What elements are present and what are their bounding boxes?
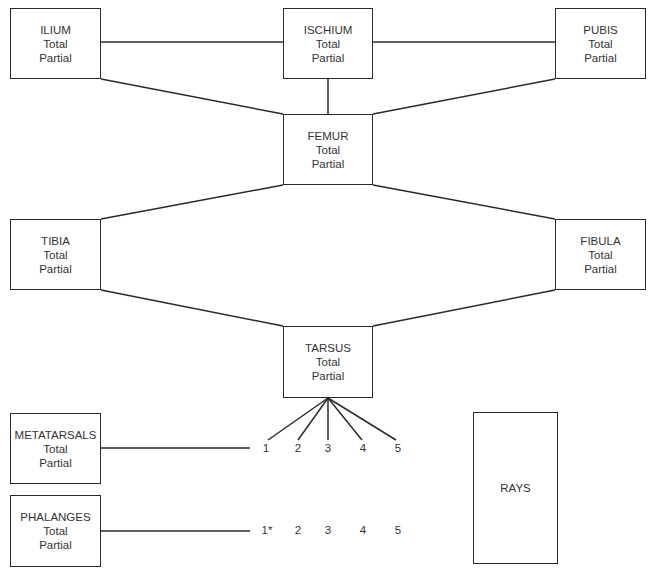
node-partial: Partial: [39, 262, 72, 276]
phalanx-number-3: 3: [325, 524, 331, 536]
node-title: RAYS: [500, 481, 530, 495]
node-femur: FEMUR Total Partial: [283, 114, 373, 185]
node-partial: Partial: [584, 51, 617, 65]
node-partial: Partial: [39, 538, 72, 552]
phalanx-number-4: 4: [360, 524, 366, 536]
node-tibia: TIBIA Total Partial: [10, 219, 101, 290]
node-partial: Partial: [312, 369, 345, 383]
node-title: ISCHIUM: [304, 23, 353, 37]
node-phalanges: PHALANGES Total Partial: [10, 495, 101, 567]
node-total: Total: [316, 355, 340, 369]
node-ilium: ILIUM Total Partial: [10, 8, 101, 79]
node-rays: RAYS: [473, 412, 558, 564]
node-total: Total: [588, 248, 612, 262]
node-tarsus: TARSUS Total Partial: [283, 326, 373, 398]
metatarsal-number-1: 1: [263, 442, 269, 454]
node-partial: Partial: [584, 262, 617, 276]
node-total: Total: [316, 37, 340, 51]
node-total: Total: [588, 37, 612, 51]
node-title: FEMUR: [308, 129, 349, 143]
node-pubis: PUBIS Total Partial: [555, 8, 646, 79]
node-partial: Partial: [39, 456, 72, 470]
node-title: METATARSALS: [15, 428, 97, 442]
node-partial: Partial: [39, 51, 72, 65]
node-total: Total: [43, 524, 67, 538]
metatarsal-number-3: 3: [325, 442, 331, 454]
node-title: TIBIA: [41, 234, 70, 248]
node-title: FIBULA: [580, 234, 620, 248]
metatarsal-number-5: 5: [395, 442, 401, 454]
node-title: TARSUS: [305, 341, 351, 355]
node-total: Total: [43, 37, 67, 51]
node-ischium: ISCHIUM Total Partial: [283, 8, 373, 79]
metatarsal-number-2: 2: [295, 442, 301, 454]
node-partial: Partial: [312, 51, 345, 65]
phalanx-number-2: 2: [295, 524, 301, 536]
node-title: PUBIS: [583, 23, 618, 37]
node-fibula: FIBULA Total Partial: [555, 219, 646, 290]
node-partial: Partial: [312, 157, 345, 171]
phalanx-number-1: 1*: [262, 524, 273, 536]
node-title: ILIUM: [40, 23, 71, 37]
node-metatarsals: METATARSALS Total Partial: [10, 413, 101, 484]
node-total: Total: [43, 442, 67, 456]
node-total: Total: [43, 248, 67, 262]
node-title: PHALANGES: [20, 510, 90, 524]
phalanx-number-5: 5: [395, 524, 401, 536]
metatarsal-number-4: 4: [360, 442, 366, 454]
node-total: Total: [316, 143, 340, 157]
